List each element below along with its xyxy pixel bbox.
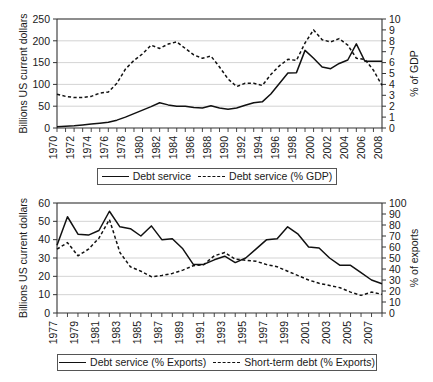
legend-entry-debt-service-gdp: Debt service (% GDP) xyxy=(198,171,332,182)
x-axis-tick-label: 1976 xyxy=(98,136,110,160)
debt-service-exports-chart: 0102030405060010203040506070809010019771… xyxy=(0,191,433,382)
y2-axis-tick-label: 10 xyxy=(389,296,401,308)
y2-axis-tick-label: 100 xyxy=(389,197,407,209)
bottom-chart-svg: 0102030405060010203040506070809010019771… xyxy=(0,191,433,356)
x-axis-tick-label: 1978 xyxy=(115,136,127,160)
top-chart-legend: Debt service Debt service (% GDP) xyxy=(97,168,337,185)
x-axis-tick-label: 2004 xyxy=(338,136,350,160)
x-axis-tick-label: 1981 xyxy=(89,321,101,345)
x-axis-tick-label: 1974 xyxy=(81,136,93,160)
x-axis-tick-label: 1985 xyxy=(131,321,143,345)
y2-axis-tick-label: 1 xyxy=(389,111,395,123)
y2-axis-tick-label: 80 xyxy=(389,219,401,231)
x-axis-tick-label: 2006 xyxy=(355,136,367,160)
solid-line-swatch-icon xyxy=(59,362,86,363)
series-line-1 xyxy=(57,44,382,127)
x-axis-tick-label: 2007 xyxy=(362,321,374,345)
y2-axis-tick-label: 90 xyxy=(389,208,401,220)
y-axis-tick-label: 100 xyxy=(32,78,50,90)
y2-axis-tick-label: 70 xyxy=(389,230,401,242)
x-axis-tick-label: 1993 xyxy=(215,321,227,345)
y-axis-tick-label: 50 xyxy=(38,100,50,112)
solid-line-swatch-icon xyxy=(102,176,129,177)
x-axis-tick-label: 1991 xyxy=(194,321,206,345)
x-axis-tick-label: 1983 xyxy=(110,321,122,345)
y-axis-tick-label: 250 xyxy=(32,13,50,25)
y-axis-title: Billions US current dollars xyxy=(17,198,29,318)
x-axis-tick-label: 1977 xyxy=(47,321,59,345)
y-axis-tick-label: 20 xyxy=(38,270,50,282)
bottom-chart-legend: Debt service (% Exports) Short-term debt… xyxy=(57,354,377,371)
legend-label: Short-term debt (% Exports) xyxy=(244,357,375,368)
x-axis-tick-label: 2005 xyxy=(341,321,353,345)
y2-axis-tick-label: 7 xyxy=(389,45,395,57)
y2-axis-tick-label: 50 xyxy=(389,252,401,264)
y2-axis-tick-label: 0 xyxy=(389,122,395,134)
legend-entry-short-term-debt-exports: Short-term debt (% Exports) xyxy=(213,357,375,368)
legend-label: Debt service (% Exports) xyxy=(90,357,206,368)
x-axis-tick-label: 2008 xyxy=(372,136,384,160)
x-axis-tick-label: 1984 xyxy=(167,136,179,160)
y2-axis-title: % of exports xyxy=(408,229,420,287)
x-axis-tick-label: 1992 xyxy=(235,136,247,160)
y-axis-tick-label: 30 xyxy=(38,252,50,264)
y2-axis-tick-label: 30 xyxy=(389,274,401,286)
x-axis-tick-label: 1998 xyxy=(286,136,298,160)
bottom-plot-wrapper: 0102030405060010203040506070809010019771… xyxy=(0,191,433,356)
x-axis-tick-label: 1995 xyxy=(236,321,248,345)
top-chart-svg: 0501001502002500123456789101970197219741… xyxy=(0,0,433,172)
x-axis-tick-label: 1996 xyxy=(269,136,281,160)
y2-axis-tick-label: 9 xyxy=(389,24,395,36)
y2-axis-tick-label: 10 xyxy=(389,13,401,25)
y-axis-tick-label: 10 xyxy=(38,288,50,300)
x-axis-tick-label: 1970 xyxy=(47,136,59,160)
y2-axis-tick-label: 6 xyxy=(389,56,395,68)
x-axis-tick-label: 1982 xyxy=(150,136,162,160)
x-axis-tick-label: 1997 xyxy=(257,321,269,345)
series-line-1 xyxy=(57,211,382,283)
x-axis-tick-label: 2002 xyxy=(321,136,333,160)
dashed-line-swatch-icon xyxy=(213,362,240,363)
legend-entry-debt-service: Debt service xyxy=(102,171,191,182)
legend-label: Debt service xyxy=(133,171,191,182)
y2-axis-tick-label: 5 xyxy=(389,67,395,79)
x-axis-tick-label: 2000 xyxy=(304,136,316,160)
legend-entry-debt-service-exports: Debt service (% Exports) xyxy=(59,357,206,368)
y-axis-tick-label: 0 xyxy=(44,307,50,319)
y2-axis-tick-label: 4 xyxy=(389,78,395,90)
y2-axis-title: % of GDP xyxy=(408,50,420,97)
y-axis-tick-label: 0 xyxy=(44,122,50,134)
x-axis-tick-label: 1972 xyxy=(64,136,76,160)
x-axis-tick-label: 1999 xyxy=(278,321,290,345)
y-axis-tick-label: 50 xyxy=(38,215,50,227)
y-axis-tick-label: 40 xyxy=(38,233,50,245)
y-axis-tick-label: 60 xyxy=(38,197,50,209)
y2-axis-tick-label: 0 xyxy=(389,307,395,319)
x-axis-tick-label: 2001 xyxy=(299,321,311,345)
y2-axis-tick-label: 40 xyxy=(389,263,401,275)
top-plot-wrapper: 0501001502002500123456789101970197219741… xyxy=(0,0,433,172)
y-axis-title: Billions US current dollars xyxy=(17,13,29,133)
dashed-line-swatch-icon xyxy=(198,176,225,177)
x-axis-tick-label: 1994 xyxy=(252,136,264,160)
y2-axis-tick-label: 60 xyxy=(389,241,401,253)
y2-axis-tick-label: 8 xyxy=(389,35,395,47)
series-line-2 xyxy=(57,30,382,98)
x-axis-tick-label: 1988 xyxy=(201,136,213,160)
x-axis-tick-label: 1989 xyxy=(173,321,185,345)
debt-service-gdp-chart: 0501001502002500123456789101970197219741… xyxy=(0,0,433,191)
x-axis-tick-label: 1979 xyxy=(68,321,80,345)
y-axis-tick-label: 150 xyxy=(32,56,50,68)
legend-label: Debt service (% GDP) xyxy=(229,171,332,182)
x-axis-tick-label: 1980 xyxy=(133,136,145,160)
x-axis-tick-label: 1990 xyxy=(218,136,230,160)
y-axis-tick-label: 200 xyxy=(32,35,50,47)
x-axis-tick-label: 1986 xyxy=(184,136,196,160)
x-axis-tick-label: 2003 xyxy=(320,321,332,345)
x-axis-tick-label: 1987 xyxy=(152,321,164,345)
y2-axis-tick-label: 3 xyxy=(389,89,395,101)
y2-axis-tick-label: 2 xyxy=(389,100,395,112)
y2-axis-tick-label: 20 xyxy=(389,285,401,297)
